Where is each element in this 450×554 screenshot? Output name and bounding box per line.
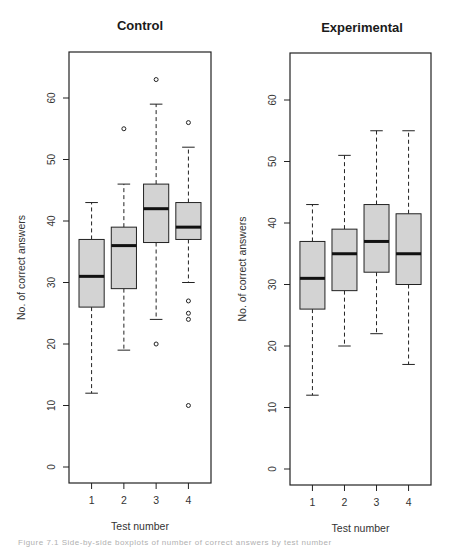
y-tick-label: 40: [46, 215, 57, 227]
box-test-1: [79, 203, 104, 394]
outlier-point: [122, 127, 126, 131]
y-tick-label: 30: [267, 279, 278, 291]
y-tick-label: 10: [46, 400, 57, 412]
y-axis-label: No. of correct answers: [236, 216, 248, 321]
outlier-point: [186, 299, 190, 303]
y-tick-label: 60: [46, 92, 57, 104]
y-tick-label: 10: [267, 402, 278, 414]
x-tick-label: 1: [310, 496, 316, 508]
iqr-box: [111, 227, 136, 289]
y-tick-label: 0: [267, 466, 278, 472]
y-tick-label: 20: [46, 338, 57, 350]
iqr-box: [332, 229, 357, 291]
x-axis-label: Test number: [111, 520, 169, 532]
y-tick-label: 50: [267, 156, 278, 168]
iqr-box: [396, 214, 421, 285]
iqr-box: [364, 205, 389, 273]
iqr-box: [79, 239, 104, 307]
y-tick-label: 0: [46, 464, 57, 470]
experimental-panel: Experimental0102030405060No. of correct …: [236, 20, 431, 534]
x-tick-label: 1: [89, 494, 95, 506]
x-axis-label: Test number: [332, 522, 390, 534]
outlier-point: [186, 317, 190, 321]
x-tick-label: 2: [342, 496, 348, 508]
outlier-point: [186, 311, 190, 315]
chart-title: Experimental: [321, 20, 403, 35]
iqr-box: [300, 241, 325, 309]
y-tick-label: 40: [267, 217, 278, 229]
y-axis-label: No. of correct answers: [15, 215, 27, 320]
box-test-4: [176, 121, 201, 408]
box-test-3: [364, 131, 389, 334]
outlier-point: [154, 78, 158, 82]
control-panel: Control0102030405060No. of correct answe…: [15, 18, 211, 532]
x-tick-label: 4: [406, 496, 412, 508]
x-tick-label: 2: [121, 494, 127, 506]
outlier-point: [186, 121, 190, 125]
outlier-point: [186, 404, 190, 408]
y-tick-label: 50: [46, 154, 57, 166]
iqr-box: [144, 184, 169, 242]
y-tick-label: 30: [46, 277, 57, 289]
iqr-box: [176, 203, 201, 240]
x-tick-label: 4: [185, 494, 191, 506]
box-test-2: [111, 127, 136, 350]
box-test-4: [396, 131, 421, 365]
y-tick-label: 60: [267, 94, 278, 106]
boxplot-figure: Control0102030405060No. of correct answe…: [0, 0, 450, 554]
box-test-1: [300, 205, 325, 396]
x-tick-label: 3: [153, 494, 159, 506]
chart-title: Control: [117, 18, 163, 33]
x-tick-label: 3: [374, 496, 380, 508]
figure-caption: Figure 7.1 Side-by-side boxplots of numb…: [18, 538, 332, 547]
box-test-3: [144, 78, 169, 346]
outlier-point: [154, 342, 158, 346]
box-test-2: [332, 155, 357, 346]
y-tick-label: 20: [267, 340, 278, 352]
